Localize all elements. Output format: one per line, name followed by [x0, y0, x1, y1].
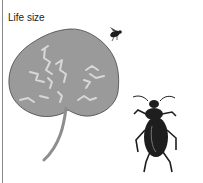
- beetle-icon: [133, 96, 176, 172]
- leaf-icon: [9, 29, 119, 160]
- illustration-frame: Life size: [0, 0, 203, 183]
- illustration-canvas: [0, 0, 203, 183]
- fly-icon: [109, 27, 122, 41]
